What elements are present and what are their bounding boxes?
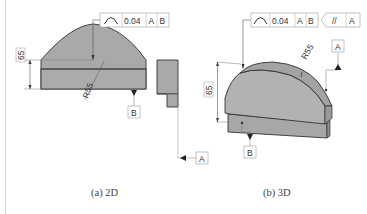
fcf-datum-2: B [160,16,166,26]
arrow-up-3d [216,62,219,66]
arrow-up [29,60,32,64]
parallelism-frame-3d: // A [321,13,360,27]
feature-control-frame: 0.04 A B [100,13,169,27]
datum-a-triangle-3d [335,64,342,70]
fcf-arrow-3d [242,64,245,69]
panel-2d: 65 R55 B A [16,13,209,199]
ext-line-top-3d [216,62,241,64]
arrow-down-3d [216,118,219,122]
datum-b-triangle-3d [247,134,253,140]
caption-2d: (a) 2D [91,187,119,199]
feature-control-frame-3d: 0.04 A B [251,13,318,27]
datum-b-text-3d: B [247,148,253,158]
fcf-datum-2-3d: B [308,16,314,26]
parallelism-icon: // [332,16,337,26]
fcf-leader-3d [243,20,251,68]
side-view: A [157,60,208,164]
arrow-down [29,85,32,89]
dim-65-text-3d: 65 [204,85,214,95]
datum-a-triangle [180,155,186,161]
datum-a-text: A [199,154,205,164]
fcf-tolerance: 0.04 [124,16,141,26]
panel-3d: 65 R55 A B 0.04 A B // [204,13,361,199]
datum-b-triangle [131,90,137,96]
front-view: 65 R55 B [16,20,147,118]
fcf-datum-1: A [149,16,155,26]
fcf-tolerance-3d: 0.04 [272,16,289,26]
datum-a-leader-3d [326,70,338,90]
radius-text-3d: R55 [299,42,316,61]
side-profile [157,60,178,107]
dim-65-text: 65 [16,50,26,60]
iso-right-side [325,106,332,124]
datum-b-text: B [131,108,137,118]
datum-a-text-3d: A [335,42,341,52]
iso-base-side [327,120,330,138]
technical-drawing: 65 R55 B A [0,0,367,214]
parallel-datum: A [349,16,355,26]
fcf-datum-1-3d: A [297,16,303,26]
caption-3d: (b) 3D [263,187,291,199]
iso-part [225,62,332,138]
